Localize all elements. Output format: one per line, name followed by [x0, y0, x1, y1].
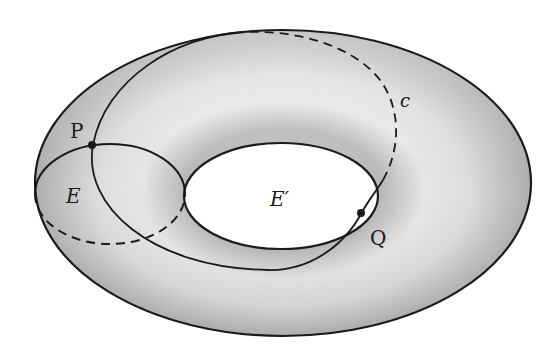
label-e: E: [65, 184, 81, 208]
point-p-marker: [88, 141, 96, 149]
label-q: Q: [370, 226, 386, 250]
label-c: c: [400, 90, 410, 111]
point-q-marker: [357, 209, 365, 217]
label-e-prime: E′: [269, 187, 290, 211]
torus-diagram: P Q E E′ c: [0, 0, 557, 351]
label-p: P: [70, 119, 83, 143]
